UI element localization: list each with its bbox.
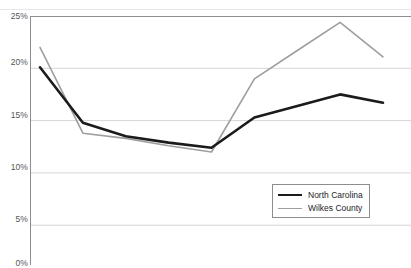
series-line-wilkes-county	[40, 22, 383, 152]
legend-label-wilkes-county: Wilkes County	[308, 203, 362, 213]
legend-label-north-carolina: North Carolina	[308, 190, 363, 200]
legend-item-north-carolina: North Carolina	[278, 189, 364, 201]
series-line-north-carolina	[40, 67, 383, 148]
legend-swatch-icon-north-carolina	[278, 194, 302, 196]
series-lines	[40, 22, 383, 152]
legend-swatch-icon-wilkes-county	[278, 208, 302, 209]
chart-legend: North Carolina Wilkes County	[272, 184, 370, 218]
legend-item-wilkes-county: Wilkes County	[278, 202, 364, 214]
